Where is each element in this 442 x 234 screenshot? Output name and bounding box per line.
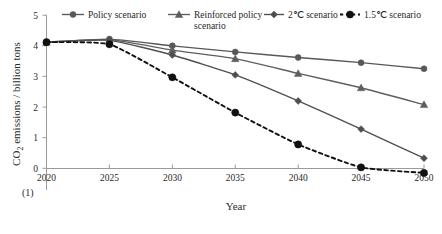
y-tick-label: 5: [33, 11, 38, 21]
figure-number-label: (1): [22, 187, 34, 199]
y-tick-label: 2: [33, 103, 38, 113]
data-point-marker: [70, 12, 76, 18]
data-point-marker: [295, 54, 301, 60]
data-point-marker: [232, 109, 239, 116]
data-point-marker: [232, 49, 238, 55]
y-axis-title-co: CO: [10, 151, 22, 166]
data-point-marker: [420, 169, 427, 176]
data-point-marker: [295, 141, 302, 148]
co2-emissions-scenario-chart: 5 4 3 2 1 0 2020 2025 2030 2035 2040 204…: [0, 0, 442, 234]
y-tick-label: 4: [33, 41, 38, 51]
legend-label: 1.5℃ scenario: [364, 10, 421, 20]
y-tick-label: 1: [33, 133, 38, 143]
data-point-marker: [421, 66, 427, 72]
legend-label: Reinforced policy: [194, 10, 263, 20]
legend-label: Policy scenario: [88, 10, 147, 20]
data-point-marker: [357, 164, 364, 171]
legend-label: 2℃ scenario: [288, 10, 338, 20]
x-tick-label: 2020: [37, 173, 56, 183]
x-axis-title: Year: [226, 200, 247, 212]
legend-label-line2: scenario: [194, 21, 226, 31]
y-tick-label: 3: [33, 72, 38, 82]
x-tick-label: 2035: [226, 173, 245, 183]
x-tick-label: 2045: [352, 173, 371, 183]
x-tick-label: 2025: [100, 173, 119, 183]
data-point-marker: [358, 60, 364, 66]
y-axis-title-rest: emissions / billion tons: [10, 42, 22, 147]
data-point-marker: [106, 41, 113, 48]
data-point-marker: [43, 39, 50, 46]
figure-background: [0, 0, 442, 234]
data-point-marker: [346, 11, 353, 18]
data-point-marker: [169, 74, 176, 81]
x-tick-label: 2040: [289, 173, 308, 183]
x-tick-label: 2030: [163, 173, 182, 183]
